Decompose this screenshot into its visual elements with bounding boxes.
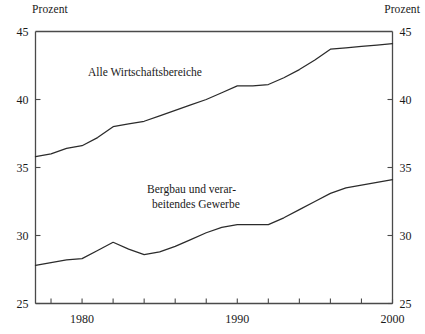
x-tick-label: 2000	[381, 312, 405, 326]
y-tick-label-left: 35	[17, 161, 29, 175]
chart-figure: Prozent Prozent 4540353025 4540353025 19…	[0, 0, 425, 334]
series-label-bergbau: Bergbau und verar-beitendes Gewerbe	[147, 183, 240, 210]
y-tick-label-left: 45	[17, 25, 29, 39]
y-tick-label-left: 40	[17, 93, 29, 107]
y-tick-label-right: 45	[400, 25, 412, 39]
x-axis-tick-labels: 198019902000	[70, 312, 404, 326]
y-axis-ticks-right	[388, 100, 393, 304]
y-tick-label-right: 30	[400, 229, 412, 243]
series-annotations: Alle WirtschaftsbereicheBergbau und vera…	[88, 66, 240, 210]
x-tick-label: 1990	[225, 312, 249, 326]
x-tick-label: 1980	[70, 312, 94, 326]
y-tick-label-right: 40	[400, 93, 412, 107]
line-chart-plot: 4540353025 4540353025 198019902000 Alle …	[0, 0, 425, 334]
y-tick-label-left: 30	[17, 229, 29, 243]
y-axis-tick-labels-left: 4540353025	[17, 25, 29, 311]
y-tick-label-right: 35	[400, 161, 412, 175]
x-axis-ticks	[51, 299, 392, 304]
series-line	[36, 44, 393, 157]
y-tick-label-right: 25	[400, 297, 412, 311]
y-tick-label-left: 25	[17, 297, 29, 311]
y-axis-ticks-left	[36, 100, 41, 304]
series-label-alle-wirtschaftsbereiche: Alle Wirtschaftsbereiche	[88, 66, 202, 78]
y-axis-tick-labels-right: 4540353025	[400, 25, 412, 311]
